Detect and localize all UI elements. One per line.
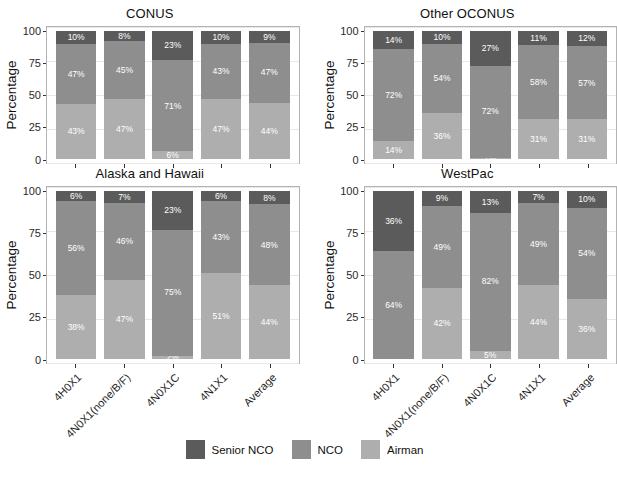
bar-segment-airman[interactable]: 43% [56, 104, 97, 159]
bar-segment-senior-nco[interactable]: 8% [104, 31, 145, 41]
bar-segment-airman[interactable]: 44% [518, 285, 559, 359]
bar-segment-airman[interactable]: 31% [518, 119, 559, 159]
bar-segment-nco[interactable]: 64% [373, 251, 414, 359]
bar-segment-label: 14% [385, 36, 402, 45]
x-axis-tick: 4H0X1 [51, 364, 100, 369]
bar-segment-senior-nco[interactable]: 10% [56, 31, 97, 44]
bar-segment-nco[interactable]: 45% [104, 41, 145, 99]
bar-segment-senior-nco[interactable]: 6% [56, 191, 97, 201]
stacked-bar[interactable]: 10%54%36% [422, 31, 463, 159]
bar-segment-senior-nco[interactable]: 6% [201, 191, 242, 201]
bar-segment-senior-nco[interactable]: 14% [373, 31, 414, 49]
tick-mark [173, 364, 174, 368]
bar-segment-label: 31% [530, 135, 547, 144]
stacked-bar[interactable]: 11%58%31% [518, 31, 559, 159]
bar-segment-nco[interactable]: 58% [518, 45, 559, 119]
bar-segment-senior-nco[interactable]: 10% [567, 191, 608, 208]
bar-segment-label: 1% [484, 158, 496, 159]
x-axis-tick-label: 4N0X1C [461, 371, 499, 409]
stacked-bar[interactable]: 6%56%38% [56, 191, 97, 359]
stacked-bar[interactable]: 10%54%36% [567, 191, 608, 359]
bar-segment-senior-nco[interactable]: 11% [518, 31, 559, 45]
bar-segment-nco[interactable]: 48% [249, 204, 290, 285]
legend-item[interactable]: NCO [292, 440, 344, 459]
bar-segment-nco[interactable]: 54% [567, 208, 608, 299]
bar-segment-airman[interactable]: 47% [104, 99, 145, 159]
bar-segment-nco[interactable]: 82% [470, 213, 511, 351]
stacked-bar[interactable]: 36%64% [373, 191, 414, 359]
bar-segment-label: 75% [164, 288, 181, 297]
bar-segment-nco[interactable]: 46% [104, 203, 145, 280]
bar-segment-label: 2% [167, 356, 179, 359]
bar-segment-nco[interactable]: 43% [201, 44, 242, 99]
bar-segment-nco[interactable]: 47% [56, 44, 97, 104]
bar-segment-label: 47% [68, 70, 85, 79]
bar-segment-nco[interactable]: 56% [56, 201, 97, 295]
tick-mark [490, 364, 491, 368]
bar-segment-senior-nco[interactable]: 23% [152, 31, 193, 60]
bar-segment-senior-nco[interactable]: 7% [104, 191, 145, 203]
bar-segment-senior-nco[interactable]: 9% [422, 191, 463, 206]
bar-segment-nco[interactable]: 75% [152, 230, 193, 356]
stacked-bar[interactable]: 8%45%47% [104, 31, 145, 159]
bar-segment-nco[interactable]: 47% [249, 43, 290, 103]
bar-segment-label: 58% [530, 78, 547, 87]
bar-segment-airman[interactable]: 31% [567, 119, 608, 159]
bar-segment-nco[interactable]: 43% [201, 201, 242, 273]
bar-segment-airman[interactable]: 6% [152, 151, 193, 159]
bar-segment-airman[interactable]: 44% [249, 103, 290, 159]
bar-segment-nco[interactable]: 72% [373, 49, 414, 141]
bar-segment-senior-nco[interactable]: 10% [201, 31, 242, 44]
bar-segment-airman[interactable]: 38% [56, 295, 97, 359]
bar-segment-senior-nco[interactable]: 23% [152, 191, 193, 230]
stacked-bar[interactable]: 10%43%47% [201, 31, 242, 159]
bar-segment-airman[interactable]: 47% [104, 280, 145, 359]
stacked-bar[interactable]: 6%43%51% [201, 191, 242, 359]
bar-segment-airman[interactable]: 44% [249, 285, 290, 359]
bar-segment-nco[interactable]: 57% [567, 46, 608, 119]
y-axis-tick-label: 100 [23, 185, 41, 197]
stacked-bar[interactable]: 23%71%6% [152, 31, 193, 159]
bar-segment-airman[interactable]: 14% [373, 141, 414, 159]
bar-segment-airman[interactable]: 2% [152, 356, 193, 359]
bar-segment-senior-nco[interactable]: 10% [422, 31, 463, 44]
stacked-bar[interactable]: 13%82%5% [470, 191, 511, 359]
bar-segment-nco[interactable]: 72% [470, 66, 511, 158]
bar-segment-senior-nco[interactable]: 36% [373, 191, 414, 251]
bar-segment-nco[interactable]: 54% [422, 44, 463, 113]
bar-segment-airman[interactable]: 51% [201, 273, 242, 359]
y-axis: Percentage0255075100 [318, 26, 364, 164]
bar-segment-airman[interactable]: 1% [470, 158, 511, 159]
y-axis-ticks: 0255075100 [16, 186, 46, 364]
bar-segment-airman[interactable]: 36% [422, 113, 463, 159]
legend-item[interactable]: Senior NCO [186, 440, 274, 459]
bar-segment-senior-nco[interactable]: 9% [249, 31, 290, 43]
stacked-bar[interactable]: 9%49%42% [422, 191, 463, 359]
bar-segment-airman[interactable]: 47% [201, 99, 242, 159]
bar-segment-nco[interactable]: 71% [152, 60, 193, 151]
y-axis-tick-label: 50 [29, 269, 41, 281]
stacked-bar[interactable]: 7%46%47% [104, 191, 145, 359]
stacked-bar[interactable]: 8%48%44% [249, 191, 290, 359]
bar-segment-senior-nco[interactable]: 12% [567, 31, 608, 46]
bar-segment-nco[interactable]: 49% [518, 203, 559, 285]
bar-slot: 10%54%36% [418, 31, 466, 159]
bar-segment-airman[interactable]: 36% [567, 299, 608, 359]
bar-segment-senior-nco[interactable]: 13% [470, 191, 511, 213]
bar-segment-label: 6% [70, 192, 82, 201]
bar-segment-airman[interactable]: 5% [470, 351, 511, 359]
stacked-bar[interactable]: 10%47%43% [56, 31, 97, 159]
bar-segment-senior-nco[interactable]: 7% [518, 191, 559, 203]
bar-segment-airman[interactable]: 42% [422, 288, 463, 359]
bar-segment-senior-nco[interactable]: 27% [470, 31, 511, 66]
bar-segment-nco[interactable]: 49% [422, 206, 463, 288]
stacked-bar[interactable]: 14%72%14% [373, 31, 414, 159]
stacked-bar[interactable]: 9%47%44% [249, 31, 290, 159]
bar-segment-senior-nco[interactable]: 8% [249, 191, 290, 204]
legend-item[interactable]: Airman [361, 440, 423, 459]
stacked-bar[interactable]: 27%72%1% [470, 31, 511, 159]
stacked-bar[interactable]: 23%75%2% [152, 191, 193, 359]
stacked-bar[interactable]: 7%49%44% [518, 191, 559, 359]
x-axis-tick: Average [563, 364, 612, 369]
stacked-bar[interactable]: 12%57%31% [567, 31, 608, 159]
